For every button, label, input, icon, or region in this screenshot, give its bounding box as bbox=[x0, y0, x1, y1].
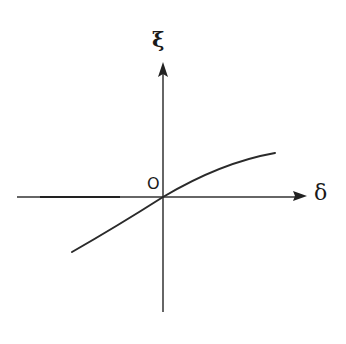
diagram-canvas: ξ δ O bbox=[0, 0, 346, 344]
origin-label: O bbox=[147, 176, 160, 192]
diagram-svg bbox=[0, 0, 346, 344]
x-axis-label: δ bbox=[314, 182, 327, 204]
x-axis-arrowhead-icon bbox=[293, 191, 307, 201]
response-curve bbox=[72, 153, 275, 252]
y-axis-label: ξ bbox=[152, 29, 164, 50]
